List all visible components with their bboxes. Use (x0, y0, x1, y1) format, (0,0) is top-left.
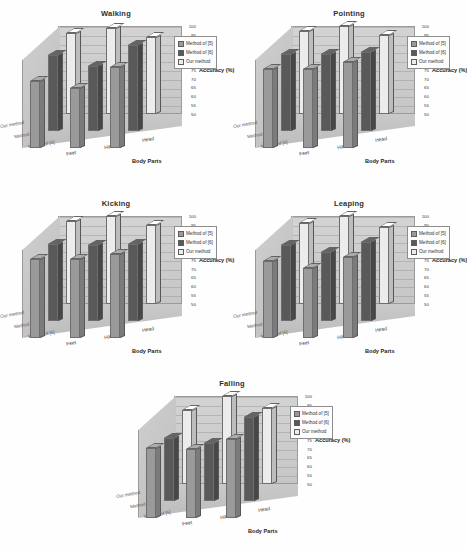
bar-side (291, 243, 296, 321)
y-axis-tick: 65 (417, 275, 429, 280)
y-axis-tick: 100 (300, 394, 312, 399)
bar-top (48, 50, 67, 55)
bar-method-of-5--hands (303, 268, 313, 338)
bar-top (128, 239, 147, 244)
legend-label: Method of [5] (186, 41, 213, 46)
bar-face (244, 417, 254, 501)
bar-top (146, 32, 165, 37)
bars-group (22, 26, 182, 148)
bar-face (361, 52, 371, 131)
bars-group (22, 216, 182, 338)
legend-label: Our method (186, 249, 210, 254)
chart-title: Kicking (0, 199, 232, 208)
legend-item[interactable]: Our method (178, 247, 213, 256)
legend-item[interactable]: Our method (178, 57, 213, 66)
bar-face (88, 66, 98, 131)
legend-swatch-icon (411, 231, 417, 237)
bar-top (321, 247, 340, 252)
y-axis-tick: 65 (184, 85, 196, 90)
bar-top (106, 23, 125, 28)
bar-face (30, 259, 40, 338)
bar-face (186, 449, 196, 518)
legend-item[interactable]: Method of [5] (178, 39, 213, 48)
bar-face (281, 54, 291, 131)
legend-item[interactable]: Method of [5] (294, 409, 329, 418)
bar-face (361, 242, 371, 321)
bar-side (98, 243, 103, 321)
bar-top (379, 30, 398, 35)
bar-method-of-5--hands (70, 259, 80, 338)
x-axis-title: Body Parts (365, 158, 395, 164)
bar-side (98, 64, 103, 131)
legend: Method of [5]Method of [6]Our method (174, 226, 217, 259)
bar-side (371, 50, 376, 131)
bar-method-of-6--head (361, 52, 371, 131)
bar-side (273, 67, 278, 148)
chart-leaping: Leaping10095908580757065605550Accuracy (… (233, 190, 465, 370)
legend-item[interactable]: Method of [5] (178, 229, 213, 238)
x-axis-label: Feet (66, 339, 77, 347)
bar-face (262, 408, 272, 484)
legend-label: Our method (419, 59, 443, 64)
bar-method-of-6--head (244, 417, 254, 501)
bar-side (313, 67, 318, 148)
bar-method-of-6--head (128, 45, 138, 131)
bar-method-of-5--head (226, 439, 236, 518)
y-axis-tick: 60 (184, 284, 196, 289)
y-axis-tick: 70 (184, 267, 196, 272)
bar-method-of-6--feet (164, 438, 174, 501)
legend-swatch-icon (411, 240, 417, 246)
legend-label: Method of [5] (419, 231, 446, 236)
legend-label: Method of [6] (186, 240, 213, 245)
y-axis-tick: 65 (300, 455, 312, 460)
bar-face (128, 244, 138, 321)
z-axis-label: Our method (233, 310, 258, 319)
bar-face (70, 88, 80, 148)
legend-swatch-icon (178, 240, 184, 246)
bar-face (321, 54, 331, 131)
legend-item[interactable]: Method of [5] (411, 39, 446, 48)
bar-face (146, 225, 156, 304)
bar-top (106, 211, 125, 216)
bar-face (128, 45, 138, 131)
bar-side (174, 435, 179, 501)
y-axis-tick: 60 (184, 94, 196, 99)
legend-item[interactable]: Our method (411, 57, 446, 66)
legend-item[interactable]: Method of [6] (411, 48, 446, 57)
legend: Method of [5]Method of [6]Our method (174, 36, 217, 69)
x-axis-label: Feet (299, 339, 310, 347)
bar-side (214, 441, 219, 501)
bar-side (156, 223, 161, 304)
bar-our-method-head (146, 225, 156, 304)
bar-method-of-6--hands (88, 245, 98, 321)
legend-item[interactable]: Method of [5] (411, 229, 446, 238)
legend-item[interactable]: Method of [6] (411, 238, 446, 247)
bar-top (361, 237, 380, 242)
bars-group (138, 396, 298, 518)
legend-label: Method of [5] (186, 231, 213, 236)
bar-top (146, 220, 165, 225)
legend-item[interactable]: Method of [6] (178, 238, 213, 247)
bar-top (182, 405, 201, 410)
bar-method-of-5--head (343, 62, 353, 148)
y-axis-tick: 70 (184, 77, 196, 82)
y-axis-tick: 65 (417, 85, 429, 90)
legend: Method of [5]Method of [6]Our method (407, 36, 450, 69)
bar-side (389, 224, 394, 304)
legend-item[interactable]: Method of [6] (294, 418, 329, 427)
chart-title: Falling (116, 379, 348, 388)
bar-top (244, 412, 263, 417)
bar-top (48, 239, 67, 244)
legend-item[interactable]: Our method (411, 247, 446, 256)
y-axis-tick: 55 (417, 293, 429, 298)
bar-side (196, 447, 201, 518)
chart-kicking: Kicking10095908580757065605550Accuracy (… (0, 190, 232, 370)
legend-item[interactable]: Our method (294, 427, 329, 436)
bars-group (255, 26, 415, 148)
y-axis-tick: 55 (184, 293, 196, 298)
y-axis-tick: 50 (184, 302, 196, 307)
y-axis-tick: 100 (184, 24, 196, 29)
y-axis-tick: 50 (184, 112, 196, 117)
legend-item[interactable]: Method of [6] (178, 48, 213, 57)
